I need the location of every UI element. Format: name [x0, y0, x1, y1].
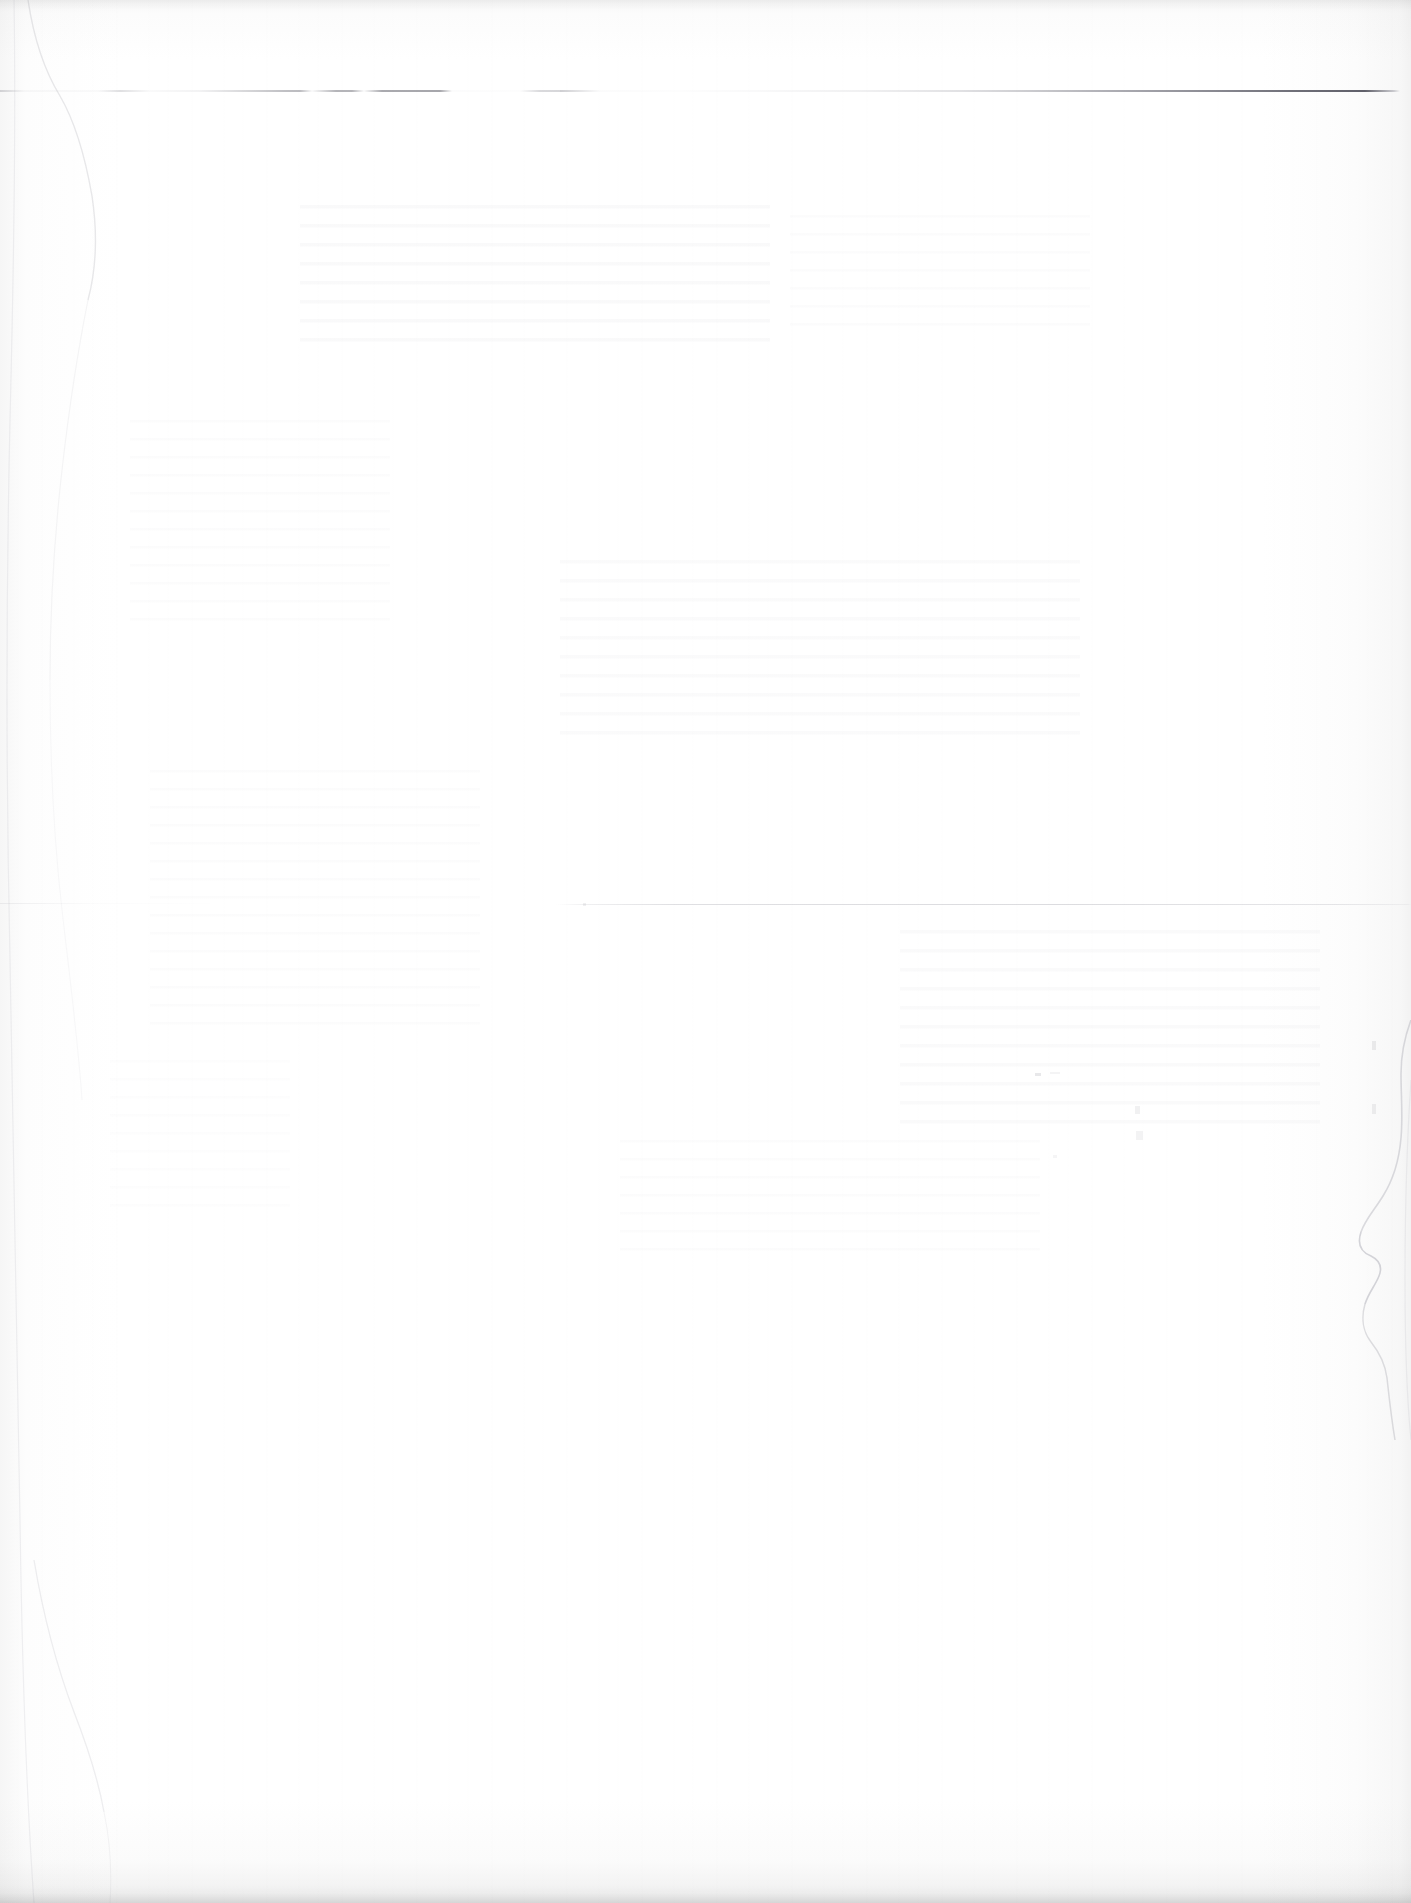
paper-background [0, 0, 1411, 1903]
scanned-page: Blank scanned paper page with no legible… [0, 0, 1411, 1903]
